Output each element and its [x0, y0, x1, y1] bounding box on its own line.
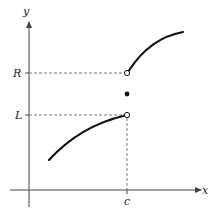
- l-label: L: [14, 109, 22, 122]
- function-value-dot: [125, 92, 130, 97]
- c-label: c: [124, 195, 130, 208]
- right-limit-open-circle: [124, 70, 129, 75]
- x-axis-label: x: [202, 184, 209, 197]
- function-graph: x y R L c: [0, 0, 213, 212]
- y-axis-label: y: [22, 5, 30, 18]
- left-branch-curve: [49, 116, 125, 161]
- right-branch-curve: [129, 32, 183, 71]
- r-label: R: [12, 67, 21, 80]
- left-limit-open-circle: [124, 112, 129, 117]
